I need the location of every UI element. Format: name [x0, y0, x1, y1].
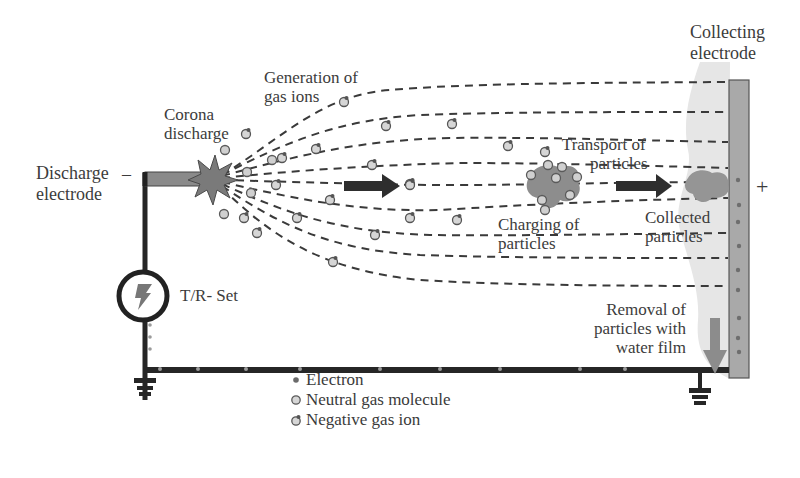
collected-particles-label: Collected particles: [645, 208, 710, 246]
generation-label-line1: Generation of: [264, 68, 358, 87]
tr-set-symbol: [119, 272, 167, 320]
charging-of-particles-label: Charging of particles: [498, 215, 579, 253]
collecting-electrode-label-line1: Collecting: [690, 22, 765, 43]
discharge-label-line1: Discharge: [36, 163, 109, 184]
positive-sign: +: [756, 176, 768, 197]
charging-label-line2: particles: [498, 234, 579, 253]
legend-item-negative-ion: Negative gas ion: [288, 410, 450, 430]
removal-label: Removal of particles with water film: [576, 300, 686, 357]
transport-label-line2: particles: [560, 154, 648, 173]
ground-symbol-right: [689, 388, 711, 405]
transport-label-line1: Transport of: [560, 135, 648, 154]
discharge-electrode-label: Discharge electrode: [36, 163, 109, 205]
charging-label-line1: Charging of: [498, 215, 579, 234]
removal-label-line3: water film: [576, 338, 686, 357]
collecting-electrode-label-line2: electrode: [690, 43, 765, 64]
legend-label: Negative gas ion: [306, 410, 420, 430]
collecting-electrode-label: Collecting electrode: [690, 22, 765, 64]
removal-label-line1: Removal of: [576, 300, 686, 319]
discharge-label-line2: electrode: [36, 184, 109, 205]
flow-arrow-1: [344, 174, 400, 198]
legend-label: Neutral gas molecule: [306, 390, 450, 410]
corona-label-line2: discharge: [164, 124, 229, 143]
negative-ion-icon: [288, 410, 306, 430]
collected-label-line2: particles: [645, 227, 710, 246]
legend-item-electron: Electron: [288, 370, 450, 390]
ground-symbol-left: [134, 378, 156, 396]
negative-sign: –: [122, 164, 131, 185]
tr-set-label: T/R- Set: [180, 286, 238, 305]
flow-arrow-2: [616, 174, 672, 198]
neutral-molecule-icon: [288, 390, 306, 410]
collected-label-line1: Collected: [645, 208, 710, 227]
corona-discharge-label: Corona discharge: [164, 105, 229, 143]
legend-item-neutral: Neutral gas molecule: [288, 390, 450, 410]
generation-label-line2: gas ions: [264, 87, 358, 106]
corona-star: [188, 155, 238, 205]
removal-label-line2: particles with: [576, 319, 686, 338]
legend-label: Electron: [306, 370, 364, 390]
collecting-electrode-plate: [729, 80, 749, 378]
legend: Electron Neutral gas molecule Negative g…: [288, 370, 450, 430]
transport-of-particles-label: Transport of particles: [560, 135, 648, 173]
corona-label-line1: Corona: [164, 105, 229, 124]
generation-of-gas-ions-label: Generation of gas ions: [264, 68, 358, 106]
electron-icon: [288, 370, 306, 390]
